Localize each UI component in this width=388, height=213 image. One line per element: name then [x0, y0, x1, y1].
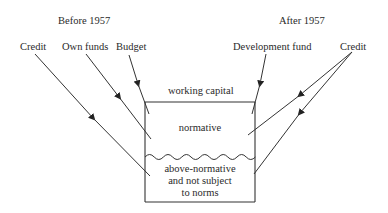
- budget-arrow: [129, 55, 149, 114]
- working-capital-label: working capital: [168, 85, 234, 97]
- own-funds-label: Own funds: [62, 41, 108, 53]
- development-fund-label: Development fund: [233, 41, 311, 53]
- above-normative-line2: and not subject: [145, 175, 255, 187]
- before-1957-header: Before 1957: [58, 15, 110, 27]
- own-funds-arrow: [86, 54, 151, 139]
- above-normative-line3: to norms: [145, 187, 255, 199]
- development-fund-arrow: [252, 54, 266, 114]
- credit-left-label: Credit: [20, 41, 46, 53]
- credit-right-arrow-lower: [254, 52, 352, 174]
- after-1957-header: After 1957: [279, 15, 325, 27]
- budget-label: Budget: [116, 41, 146, 53]
- normative-label: normative: [145, 122, 255, 134]
- above-normative-line1: above-normative: [145, 163, 255, 175]
- credit-right-label: Credit: [340, 41, 366, 53]
- wavy-divider: [145, 155, 255, 160]
